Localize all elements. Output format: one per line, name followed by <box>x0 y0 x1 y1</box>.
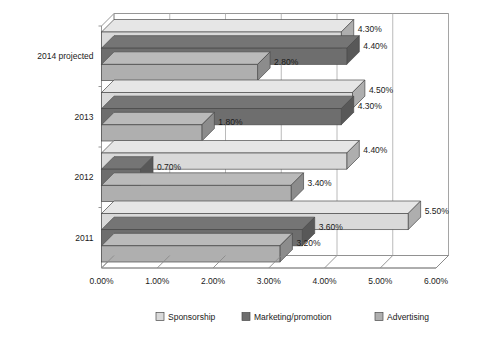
bar-top-face <box>102 20 354 33</box>
bar-value-label: 4.40% <box>363 145 388 155</box>
x-axis-tick-label: 5.00% <box>368 276 393 286</box>
legend-swatch-sponsorship[interactable] <box>156 313 164 321</box>
bar-chart: 0.00%1.00%2.00%3.00%4.00%5.00%6.00% 2014… <box>0 0 483 339</box>
bar-advertising-2014-projected <box>102 52 271 81</box>
bar-value-label: 2.80% <box>274 57 299 67</box>
x-axis-tick-label: 4.00% <box>312 276 337 286</box>
bar-front-face <box>102 246 280 262</box>
bar-top-face <box>102 96 354 109</box>
y-axis-category-label: 2014 projected <box>37 51 94 61</box>
bar-value-label: 0.70% <box>157 162 182 172</box>
bar-value-label: 4.50% <box>369 85 394 95</box>
bar-top-face <box>102 141 360 154</box>
y-axis-category-labels: 2014 projected201320122011 <box>37 51 94 243</box>
legend-label-marketing-promotion[interactable]: Marketing/promotion <box>254 312 332 322</box>
x-axis-tick-labels: 0.00%1.00%2.00%3.00%4.00%5.00%6.00% <box>89 276 448 286</box>
x-axis-tick-label: 3.00% <box>257 276 282 286</box>
bar-top-face <box>102 52 271 65</box>
bar-front-face <box>102 125 202 141</box>
bar-advertising-2012 <box>102 173 304 202</box>
bar-value-label: 3.60% <box>319 222 344 232</box>
bar-value-label: 1.80% <box>218 117 243 127</box>
bar-value-label: 4.40% <box>363 41 388 51</box>
bar-top-face <box>102 173 304 186</box>
bar-top-face <box>102 201 421 214</box>
x-axis-tick-label: 6.00% <box>424 276 449 286</box>
x-axis-tick-label: 1.00% <box>145 276 170 286</box>
bar-front-face <box>102 64 258 80</box>
bar-front-face <box>102 185 292 201</box>
y-axis-category-label: 2012 <box>75 172 94 182</box>
bar-top-face <box>102 112 215 125</box>
chart-legend: SponsorshipMarketing/promotionAdvertisin… <box>156 312 429 322</box>
legend-swatch-marketing-promotion[interactable] <box>242 313 250 321</box>
legend-swatch-advertising[interactable] <box>375 313 383 321</box>
bar-top-face <box>102 36 360 49</box>
bar-top-face <box>102 233 293 246</box>
x-axis-tick-label: 0.00% <box>89 276 114 286</box>
y-axis-category-label: 2013 <box>75 112 94 122</box>
legend-label-sponsorship[interactable]: Sponsorship <box>168 312 216 322</box>
x-axis-tick-label: 2.00% <box>201 276 226 286</box>
bar-value-label: 5.50% <box>425 206 450 216</box>
chart-container: 0.00%1.00%2.00%3.00%4.00%5.00%6.00% 2014… <box>0 0 483 339</box>
bar-advertising-2013 <box>102 112 215 141</box>
y-axis-category-label: 2011 <box>75 233 94 243</box>
bar-advertising-2011 <box>102 233 293 262</box>
bar-top-face <box>102 217 315 230</box>
bar-top-face <box>102 80 365 93</box>
bar-value-label: 3.20% <box>296 238 321 248</box>
bar-value-label: 4.30% <box>358 24 383 34</box>
legend-label-advertising[interactable]: Advertising <box>387 312 429 322</box>
bar-value-label: 4.30% <box>358 101 383 111</box>
bar-value-label: 3.40% <box>308 178 333 188</box>
